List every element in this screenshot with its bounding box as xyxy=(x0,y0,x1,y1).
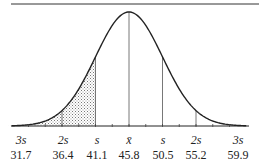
tick-value: 55.2 xyxy=(176,149,216,162)
tick-value: 31.7 xyxy=(1,149,41,162)
tick-symbol: 3s xyxy=(1,134,41,147)
tick-symbol: 3s xyxy=(218,134,258,147)
tick-symbol: 2s xyxy=(176,134,216,147)
tick-value: 59.9 xyxy=(218,149,258,162)
shaded-region xyxy=(8,57,95,126)
